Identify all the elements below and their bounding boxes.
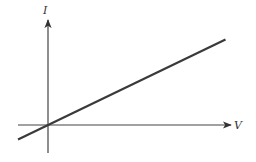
i-axis-label: I bbox=[42, 4, 48, 17]
iv-diagram: V I bbox=[0, 0, 256, 162]
v-axis-label: V bbox=[234, 119, 243, 132]
